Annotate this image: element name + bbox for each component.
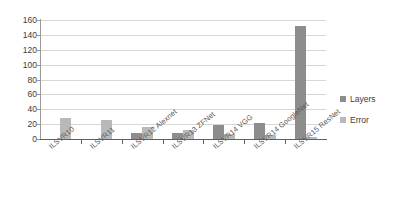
y-axis-tick-label: 20 bbox=[28, 119, 37, 129]
y-axis-tick-label: 40 bbox=[28, 104, 37, 114]
x-axis-tick bbox=[81, 139, 82, 144]
x-axis-tick bbox=[163, 139, 164, 144]
legend-swatch-icon bbox=[340, 117, 346, 123]
y-axis-tick-label: 140 bbox=[23, 30, 37, 40]
bar-group bbox=[295, 20, 317, 139]
bar-layers bbox=[295, 26, 306, 139]
y-axis-labels: 020406080100120140160 bbox=[0, 20, 37, 139]
bar-group bbox=[172, 20, 194, 139]
x-axis-labels: ILSVR10ILSVR11ILSVR12 AlexnetILSVR13 ZFN… bbox=[0, 140, 399, 216]
x-axis-tick bbox=[203, 139, 204, 144]
y-axis-tick-label: 100 bbox=[23, 60, 37, 70]
x-axis-tick bbox=[122, 139, 123, 144]
bar-chart: 020406080100120140160 ILSVR10ILSVR11ILSV… bbox=[0, 0, 399, 216]
bar-group bbox=[254, 20, 276, 139]
legend-label: Error bbox=[350, 115, 369, 125]
bar-group bbox=[213, 20, 235, 139]
y-axis-tick-label: 80 bbox=[28, 75, 37, 85]
legend-label: Layers bbox=[350, 94, 376, 104]
legend-item[interactable]: Error bbox=[340, 113, 398, 127]
chart-legend: LayersError bbox=[340, 92, 398, 134]
x-axis-tick bbox=[244, 139, 245, 144]
bar-group bbox=[49, 20, 71, 139]
y-axis-line bbox=[40, 19, 41, 140]
legend-swatch-icon bbox=[340, 96, 346, 102]
x-axis-tick bbox=[285, 139, 286, 144]
legend-item[interactable]: Layers bbox=[340, 92, 398, 106]
bar-group bbox=[90, 20, 112, 139]
y-axis-tick-label: 160 bbox=[23, 15, 37, 25]
bar-group bbox=[131, 20, 153, 139]
y-axis-tick-label: 60 bbox=[28, 89, 37, 99]
y-axis-tick-label: 120 bbox=[23, 45, 37, 55]
